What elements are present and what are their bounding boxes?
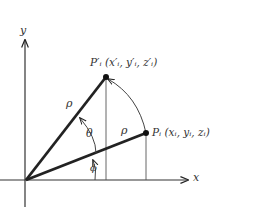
theta-label: θ <box>86 127 93 140</box>
phi-label: ϕ <box>90 162 97 173</box>
x-axis-label: x <box>193 171 199 184</box>
rho-lower-label: ρ <box>121 124 127 137</box>
p-prime-label: P′ᵢ (x′ᵢ, y′ᵢ, z′ᵢ) <box>90 56 157 68</box>
p-prime-point <box>103 74 109 80</box>
rho-upper-label: ρ <box>66 97 72 110</box>
rotation-diagram <box>0 0 259 224</box>
p-point <box>143 130 149 136</box>
p-label: Pᵢ (xᵢ, yᵢ, zᵢ) <box>152 126 210 138</box>
y-axis-label: y <box>20 24 26 37</box>
